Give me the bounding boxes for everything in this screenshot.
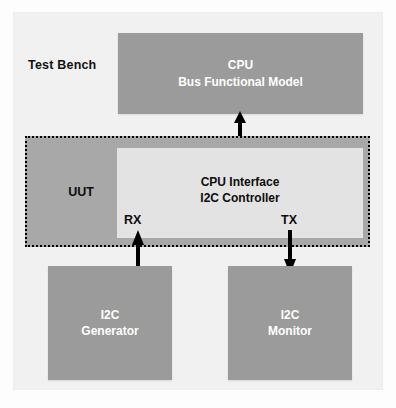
test-bench-label: Test Bench bbox=[28, 58, 96, 72]
port-label-tx: TX bbox=[281, 213, 297, 227]
block-i2c-generator: I2C Generator bbox=[48, 266, 172, 380]
i2c-generator-line-1: I2C bbox=[101, 307, 120, 323]
i2c-monitor-line-1: I2C bbox=[281, 307, 300, 323]
i2c-monitor-line-2: Monitor bbox=[268, 323, 312, 339]
i2c-generator-line-2: Generator bbox=[81, 323, 138, 339]
diagram-canvas: Test Bench CPU Bus Functional Model UUT … bbox=[0, 0, 396, 408]
port-label-rx: RX bbox=[124, 213, 141, 227]
block-cpu-interface-i2c-controller: CPU Interface I2C Controller bbox=[117, 148, 363, 238]
uut-label: UUT bbox=[56, 185, 106, 199]
cpu-interface-line-1: CPU Interface bbox=[201, 174, 280, 190]
cpu-bfm-line-2: Bus Functional Model bbox=[178, 74, 303, 90]
cpu-interface-line-2: I2C Controller bbox=[200, 190, 279, 206]
block-i2c-monitor: I2C Monitor bbox=[228, 266, 352, 380]
cpu-bfm-line-1: CPU bbox=[228, 57, 253, 73]
block-cpu-bus-functional-model: CPU Bus Functional Model bbox=[118, 33, 363, 114]
